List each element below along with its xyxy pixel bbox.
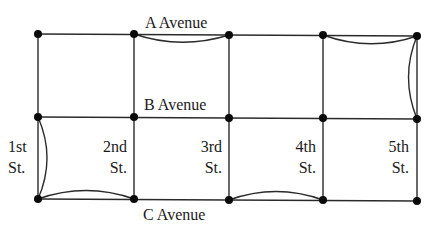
node-b-2nd	[130, 113, 138, 121]
dup-edge-c-1st-2nd	[38, 191, 134, 200]
node-a-1st	[34, 30, 42, 38]
label-4th-line1: 4th	[296, 138, 316, 155]
node-a-5th	[413, 32, 421, 40]
dup-edge-5th-a-b	[409, 36, 418, 119]
label-c-avenue: C Avenue	[143, 206, 205, 223]
node-c-5th	[413, 197, 421, 205]
street-grid-diagram: A Avenue B Avenue C Avenue 1st St. 2nd S…	[0, 0, 430, 232]
node-c-4th	[319, 196, 327, 204]
label-2nd-line2: St.	[110, 159, 127, 176]
node-a-3rd	[225, 31, 233, 39]
label-3rd-line2: St.	[205, 159, 222, 176]
label-b-avenue: B Avenue	[144, 96, 206, 113]
label-5th-line1: 5th	[389, 138, 409, 155]
label-5th-line2: St.	[392, 159, 409, 176]
label-4th-line2: St.	[299, 159, 316, 176]
dup-edge-c-3rd-4th	[229, 192, 323, 201]
label-a-avenue: A Avenue	[145, 14, 207, 31]
node-b-5th	[413, 115, 421, 123]
label-1st-line2: St.	[8, 159, 25, 176]
node-c-3rd	[225, 196, 233, 204]
dup-edge-1st-b-c	[38, 117, 47, 199]
node-a-4th	[319, 31, 327, 39]
street-labels: 1st St. 2nd St. 3rd St. 4th St. 5th St.	[8, 138, 409, 176]
node-b-3rd	[225, 114, 233, 122]
node-b-1st	[34, 113, 42, 121]
node-c-1st	[34, 195, 42, 203]
label-3rd-line1: 3rd	[201, 138, 222, 155]
node-a-2nd	[130, 30, 138, 38]
node-c-2nd	[130, 195, 138, 203]
label-2nd-line1: 2nd	[103, 138, 127, 155]
node-b-4th	[319, 114, 327, 122]
label-1st-line1: 1st	[8, 138, 27, 155]
